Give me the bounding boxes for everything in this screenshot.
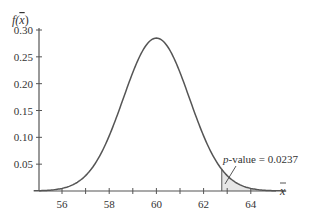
y-tick-label: 0.10 [14,131,34,143]
normal-distribution-chart: 56586062640.050.100.150.200.250.30 f(x) … [0,0,313,224]
x-tick-label: 56 [57,198,69,210]
x-axis-title: x [279,184,286,198]
normal-curve [34,38,287,191]
y-tick-label: 0.25 [14,51,34,63]
x-tick-label: 64 [245,198,257,210]
x-tick-label: 60 [151,198,163,210]
x-tick-label: 62 [198,198,209,210]
y-tick-label: 0.20 [14,78,34,90]
tick-labels: 56586062640.050.100.150.200.250.30 [14,24,257,210]
y-tick-label: 0.05 [14,158,34,170]
axes [36,28,276,194]
y-axis-title: f(x) [12,13,29,27]
p-value-annotation: p-value = 0.0237 [222,153,298,165]
x-tick-label: 58 [104,198,116,210]
y-tick-label: 0.15 [14,105,34,117]
